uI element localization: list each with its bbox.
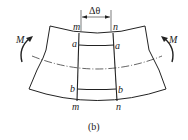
label-m-bottom: m [72,101,79,112]
moment-right-label: M [168,34,178,45]
beam-bending-diagram: Δθ M M m n a a b b m n (b) [0,0,188,140]
beam-right-break-edge [145,26,166,89]
label-m-top: m [73,21,80,32]
label-n-top: n [113,21,118,32]
label-b-left: b [70,83,75,94]
delta-theta-label: Δθ [89,5,100,16]
label-b-right: b [118,84,123,95]
label-a-left: a [72,38,77,49]
neutral-axis [32,56,162,69]
beam-top-edge [50,26,145,33]
label-n-bottom: n [116,101,121,112]
beam-bottom-edge [29,89,166,101]
label-a-right: a [115,40,120,51]
figure-caption: (b) [88,121,100,133]
fiber-b-b [77,89,116,90]
beam-left-break-edge [29,26,50,89]
moment-left-label: M [15,34,25,45]
dimension-arrowhead-left [82,15,87,18]
fiber-a-a [79,45,114,46]
dimension-arrowhead-right [105,15,110,18]
section-line-m [77,33,79,101]
